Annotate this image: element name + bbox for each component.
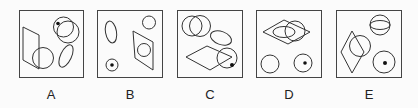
dot-icon <box>56 22 60 26</box>
ellipse-icon <box>208 28 233 48</box>
circle-icon <box>54 17 74 37</box>
option-a-label: A <box>41 87 61 102</box>
rhombus-icon <box>263 20 310 44</box>
rhombus-icon <box>341 31 364 73</box>
option-e-figure[interactable] <box>337 11 402 78</box>
circle-icon <box>33 48 54 69</box>
circle-icon <box>143 16 156 29</box>
option-c-frame <box>178 11 243 78</box>
option-a-figure[interactable] <box>20 11 84 78</box>
ellipse-icon <box>104 20 119 44</box>
parallelogram-icon <box>23 27 39 69</box>
circle-icon <box>294 54 312 72</box>
circle-icon <box>138 44 151 57</box>
dot-icon <box>303 61 307 65</box>
option-e-frame <box>337 11 402 78</box>
ellipse-icon <box>370 21 390 30</box>
option-b-label: B <box>120 87 140 102</box>
option-c-label: C <box>200 87 220 102</box>
dot-icon <box>383 61 387 65</box>
option-d-figure[interactable] <box>257 11 322 78</box>
circle-icon <box>261 55 279 73</box>
option-b-figure[interactable] <box>98 11 163 78</box>
ellipse-icon <box>273 27 295 38</box>
rhombus-icon <box>186 46 232 70</box>
option-e-label: E <box>359 87 379 102</box>
dot-icon <box>110 63 114 67</box>
circle-icon <box>57 21 79 43</box>
option-c-figure[interactable] <box>178 11 243 78</box>
circle-icon <box>190 16 211 37</box>
ellipse-icon <box>56 43 76 69</box>
dot-icon <box>230 63 234 67</box>
option-a-frame <box>20 11 84 78</box>
option-d-label: D <box>279 87 299 102</box>
circle-icon <box>370 15 390 35</box>
